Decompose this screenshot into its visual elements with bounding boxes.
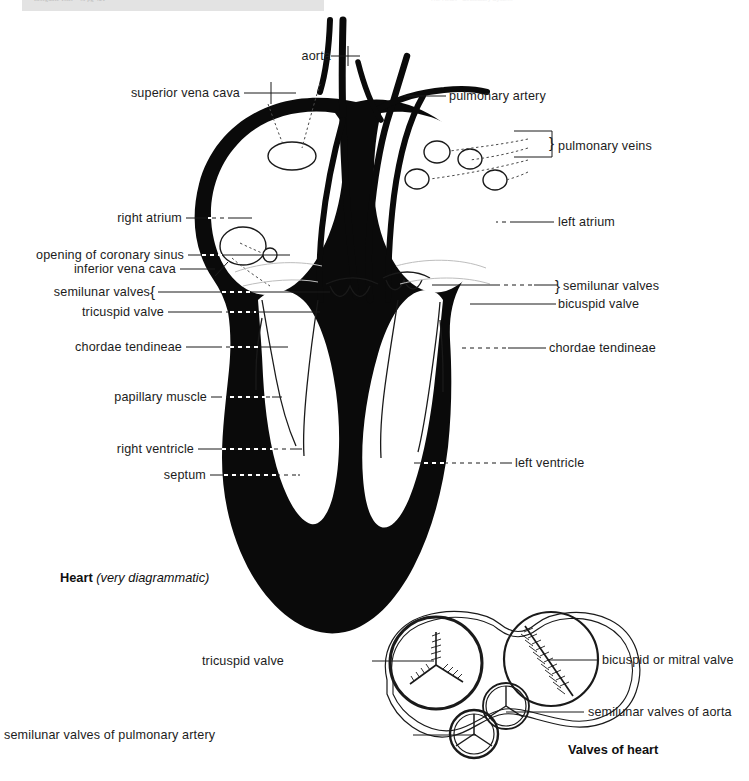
heart-figure-caption: Heart (very diagrammatic) bbox=[60, 570, 209, 585]
ivc-opening bbox=[220, 227, 266, 265]
label-semilunar-valves-left: semilunar valves bbox=[6, 286, 150, 299]
label-semilunar-valves-of-pulmonary-artery: semilunar valves of pulmonary artery bbox=[4, 729, 180, 742]
pulmonary-vein-opening-3 bbox=[405, 169, 429, 189]
label-septum: septum bbox=[6, 469, 206, 482]
valves-of-heart-figure bbox=[385, 611, 639, 758]
pulmonary-vein-opening-1 bbox=[424, 141, 450, 163]
label-inferior-vena-cava: inferior vena cava bbox=[6, 263, 176, 276]
heart-caption-bold: Heart bbox=[60, 570, 93, 585]
heart-caption-italic: (very diagrammatic) bbox=[96, 570, 209, 585]
label-superior-vena-cava: superior vena cava bbox=[14, 87, 240, 100]
label-tricuspid-valve-lower: tricuspid valve bbox=[180, 655, 284, 668]
label-semilunar-valves-right: semilunar valves bbox=[563, 280, 659, 293]
label-papillary-muscle: papillary muscle bbox=[6, 391, 207, 404]
pulmonary-veins-brace-icon: } bbox=[549, 134, 554, 151]
pv-pointer-4 bbox=[506, 172, 528, 180]
label-right-ventricle: right ventricle bbox=[6, 443, 194, 456]
pulmonary-vein-opening-4 bbox=[483, 170, 507, 190]
semilunar-valves-left-brace-icon: { bbox=[150, 283, 155, 300]
label-opening-of-coronary-sinus: opening of coronary sinus bbox=[6, 249, 184, 262]
label-tricuspid-valve: tricuspid valve bbox=[6, 306, 164, 319]
label-left-atrium: left atrium bbox=[558, 216, 615, 229]
label-bicuspid-valve: bicuspid valve bbox=[558, 298, 639, 311]
label-chordae-tendineae-right: chordae tendineae bbox=[549, 342, 656, 355]
label-bicuspid-or-mitral-valve: bicuspid or mitral valve bbox=[602, 654, 734, 667]
label-semilunar-valves-of-aorta: semilunar valves of aorta bbox=[588, 706, 732, 719]
svc-opening bbox=[268, 142, 316, 170]
label-pulmonary-artery: pulmonary artery bbox=[449, 90, 546, 103]
label-left-ventricle: left ventricle bbox=[515, 457, 584, 470]
figure-page: Inorganic Ions • 45 pg 421 The Heart • C… bbox=[0, 0, 749, 781]
label-chordae-tendineae-left: chordae tendineae bbox=[6, 341, 182, 354]
label-right-atrium: right atrium bbox=[14, 212, 182, 225]
valves-caption-bold: Valves of heart bbox=[568, 742, 658, 757]
valves-figure-caption: Valves of heart bbox=[568, 742, 658, 757]
semilunar-valves-right-brace-icon: } bbox=[555, 277, 560, 294]
label-aorta: aorta bbox=[255, 50, 331, 63]
label-pulmonary-veins: pulmonary veins bbox=[558, 140, 652, 153]
bicuspid-cusp-fringe bbox=[521, 628, 569, 694]
